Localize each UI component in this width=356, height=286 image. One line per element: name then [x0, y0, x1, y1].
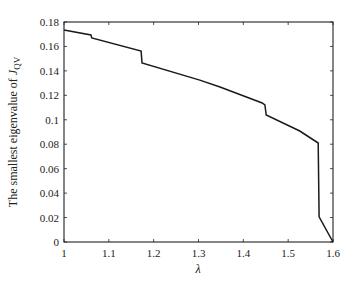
x-tick-label: 1: [61, 247, 67, 259]
y-axis-label-subscript: QV: [12, 56, 22, 69]
x-axis-label: λ: [194, 262, 200, 276]
y-tick-label: 0.06: [40, 163, 60, 175]
x-tick-label: 1.3: [192, 247, 206, 259]
x-tick-label: 1.4: [236, 247, 250, 259]
x-tick-label: 1.1: [102, 247, 116, 259]
plot-frame: [64, 22, 333, 242]
y-tick-label: 0.08: [40, 138, 60, 150]
ticks: [64, 22, 333, 242]
y-tick-label: 0: [54, 236, 60, 248]
x-tick-label: 1.6: [326, 247, 340, 259]
series-layer: [64, 30, 333, 242]
y-tick-label: 0.04: [40, 187, 60, 199]
y-tick-label: 0.12: [40, 89, 59, 101]
y-tick-label: 0.1: [45, 114, 59, 126]
x-tick-labels: 11.11.21.31.41.51.6: [61, 247, 340, 259]
x-tick-label: 1.2: [147, 247, 161, 259]
y-axis-label: The smallest eigenvalue of JQV: [6, 56, 22, 207]
series-line: [64, 30, 333, 242]
chart: 11.11.21.31.41.51.6 00.020.040.060.080.1…: [0, 0, 356, 286]
y-tick-labels: 00.020.040.060.080.10.120.140.160.18: [40, 16, 60, 248]
x-tick-label: 1.5: [281, 247, 295, 259]
y-tick-label: 0.14: [40, 65, 60, 77]
y-axis-label-text: The smallest eigenvalue of: [6, 75, 20, 207]
y-tick-label: 0.16: [40, 40, 60, 52]
y-tick-label: 0.18: [40, 16, 60, 28]
y-tick-label: 0.02: [40, 212, 59, 224]
